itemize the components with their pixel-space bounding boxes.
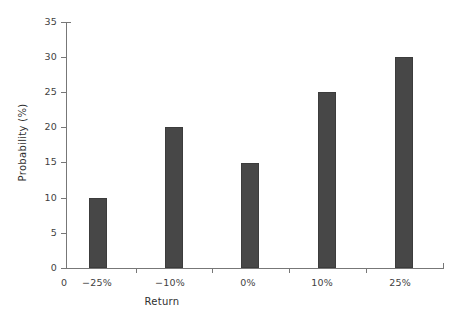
x-tick-label-3: 10% (292, 277, 352, 288)
x-axis-right-cap (443, 263, 444, 269)
x-tick-label-0: −25% (67, 277, 127, 288)
x-tick-2 (212, 268, 213, 273)
x-tick-label-1: −10% (140, 277, 200, 288)
bar-25 (395, 57, 413, 268)
x-axis-title-text: Return (145, 296, 180, 307)
y-tick-label-30: 30 (31, 52, 57, 62)
x-tick-label-4: 25% (370, 277, 430, 288)
y-tick-label-5: 5 (31, 228, 57, 238)
y-tick-label-10: 10 (31, 193, 57, 203)
bar-0 (241, 163, 259, 268)
x-axis-title: Return (0, 296, 466, 307)
y-tick-label-35: 35 (31, 17, 57, 27)
x-axis-line (66, 268, 444, 269)
y-tick-label-0: 0 (31, 263, 57, 273)
y-tick-0 (61, 268, 66, 269)
y-tick-label-20: 20 (31, 122, 57, 132)
bar-minus-10 (165, 127, 183, 268)
x-tick-1 (136, 268, 137, 273)
bar-minus-25 (89, 198, 107, 268)
y-tick-label-25: 25 (31, 87, 57, 97)
y-tick-label-15: 15 (31, 157, 57, 167)
x-tick-3 (289, 268, 290, 273)
bar-chart: 35 30 25 20 15 10 5 0 0 −25% −10% 0% 10%… (0, 0, 466, 322)
y-axis-title: Probability (%) (17, 88, 28, 198)
x-tick-label-2: 0% (218, 277, 278, 288)
plot-area (66, 22, 443, 268)
bar-10 (318, 92, 336, 268)
x-tick-4 (366, 268, 367, 273)
